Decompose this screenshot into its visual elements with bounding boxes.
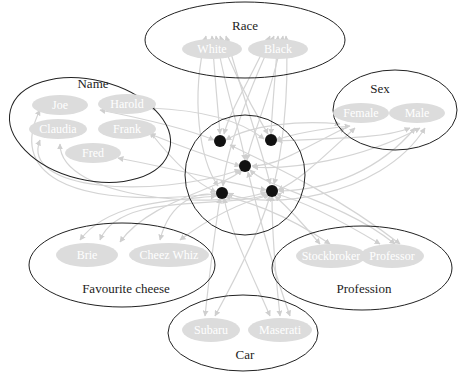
- group-label-race: Race: [232, 18, 258, 33]
- value-female[interactable]: Female: [333, 103, 389, 123]
- value-white[interactable]: White: [182, 39, 242, 59]
- group-label-cheese: Favourite cheese: [82, 281, 170, 296]
- value-brie[interactable]: Brie: [56, 243, 118, 267]
- svg-text:Joe: Joe: [52, 98, 68, 112]
- group-label-sex: Sex: [370, 81, 390, 96]
- svg-text:Male: Male: [405, 106, 430, 120]
- group-cheese: Favourite cheese Brie Cheez Whiz: [29, 223, 215, 307]
- value-fred[interactable]: Fred: [65, 143, 121, 163]
- value-subaru[interactable]: Subaru: [182, 318, 240, 342]
- hub-circle: [185, 115, 305, 235]
- svg-text:Black: Black: [264, 42, 292, 56]
- hub-node-5[interactable]: [266, 185, 278, 197]
- svg-text:Fred: Fred: [82, 146, 104, 160]
- value-stockbroker[interactable]: Stockbroker: [296, 244, 366, 268]
- svg-text:Female: Female: [343, 106, 378, 120]
- svg-text:White: White: [197, 42, 226, 56]
- svg-text:Maserati: Maserati: [259, 323, 302, 337]
- value-claudia[interactable]: Claudia: [29, 119, 87, 139]
- group-profession: Profession Stockbroker Professor: [272, 226, 452, 310]
- value-black[interactable]: Black: [248, 39, 308, 59]
- value-male[interactable]: Male: [389, 103, 445, 123]
- race-ellipse: [145, 2, 345, 78]
- group-label-name: Name: [77, 76, 108, 91]
- value-joe[interactable]: Joe: [32, 95, 88, 115]
- group-label-profession: Profession: [337, 281, 392, 296]
- group-race: Race White Black: [145, 2, 345, 78]
- svg-text:Cheez Whiz: Cheez Whiz: [140, 248, 199, 262]
- value-harold[interactable]: Harold: [98, 94, 156, 114]
- hub: [185, 115, 305, 235]
- group-name: Name Joe Harold Claudia Frank Fred: [0, 62, 182, 199]
- group-sex: Sex Female Male: [333, 70, 457, 150]
- group-car: Car Subaru Maserati: [168, 295, 318, 371]
- hub-node-3[interactable]: [239, 160, 251, 172]
- svg-text:Frank: Frank: [113, 122, 141, 136]
- group-label-car: Car: [236, 347, 255, 362]
- svg-text:Harold: Harold: [110, 97, 143, 111]
- value-frank[interactable]: Frank: [98, 119, 156, 139]
- hub-node-4[interactable]: [216, 187, 228, 199]
- value-cheez-whiz[interactable]: Cheez Whiz: [129, 243, 209, 267]
- value-professor[interactable]: Professor: [360, 244, 424, 268]
- svg-text:Brie: Brie: [77, 248, 98, 262]
- value-maserati[interactable]: Maserati: [248, 318, 312, 342]
- svg-text:Claudia: Claudia: [39, 122, 77, 136]
- svg-text:Subaru: Subaru: [194, 323, 228, 337]
- profession-ellipse: [272, 226, 452, 310]
- hub-node-1[interactable]: [214, 135, 226, 147]
- hub-node-2[interactable]: [265, 134, 277, 146]
- attribute-network-diagram: Race White Black Sex Female Male Name Jo…: [0, 0, 460, 375]
- svg-text:Professor: Professor: [369, 249, 414, 263]
- svg-text:Stockbroker: Stockbroker: [302, 249, 361, 263]
